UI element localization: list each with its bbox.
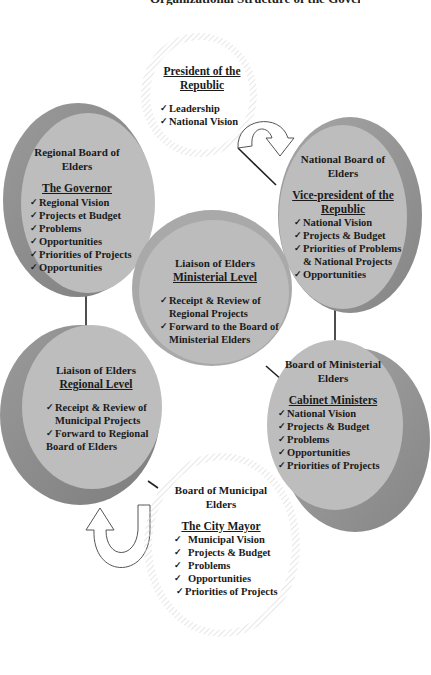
- list-item: ✓Problems: [30, 222, 132, 235]
- list-item-continuation: Board of Elders: [46, 440, 146, 453]
- check-icon: ✓: [30, 222, 38, 235]
- node-national-board: National Board of Elders Vice-president …: [288, 152, 398, 281]
- node-ministerial-board: Board of Ministerial Elders Cabinet Mini…: [278, 357, 388, 472]
- check-icon: ✓: [278, 433, 286, 446]
- municipal-board-heading: Board of Municipal Elders: [166, 483, 276, 511]
- liaison-regional-subtitle: Regional Level: [46, 377, 146, 391]
- check-icon: ✓: [278, 420, 286, 433]
- list-item-continuation: Municipal Projects: [46, 414, 146, 427]
- check-icon: ✓: [294, 268, 302, 281]
- connector-president-national: [238, 148, 276, 185]
- list-item: ✓National Vision: [160, 115, 244, 128]
- liaison-ministerial-subtitle: Ministerial Level: [160, 270, 270, 284]
- list-item: ✓Opportunities: [278, 446, 388, 459]
- list-item: ✓Municipal Vision: [174, 533, 276, 546]
- check-icon: ✓: [30, 235, 38, 248]
- list-item: ✓National Vision: [294, 216, 398, 229]
- check-icon: ✓: [160, 320, 168, 333]
- check-icon: ✓: [46, 427, 54, 440]
- check-icon: ✓: [30, 209, 38, 222]
- list-item: ✓Projects & Budget: [278, 420, 388, 433]
- list-item-continuation: & National Projects: [294, 255, 398, 268]
- check-icon: ✓: [160, 294, 168, 307]
- list-item: ✓Opportunities: [30, 261, 132, 274]
- list-item: ✓Opportunities: [30, 235, 132, 248]
- list-item: ✓Problems: [174, 559, 276, 572]
- list-item: ✓Receipt & Review of: [46, 401, 146, 414]
- list-item: ✓Regional Vision: [30, 196, 132, 209]
- node-liaison-ministerial: Liaison of Elders Ministerial Level ✓Rec…: [160, 256, 270, 346]
- list-item: ✓Priorities of Projects: [30, 248, 132, 261]
- list-item: ✓National Vision: [278, 407, 388, 420]
- national-board-heading: National Board of Elders: [288, 152, 398, 180]
- liaison-regional-heading: Liaison of Elders: [46, 363, 146, 377]
- check-icon: ✓: [46, 401, 54, 414]
- municipal-board-subtitle: The City Mayor: [166, 519, 276, 533]
- check-icon: ✓: [294, 229, 302, 242]
- list-item: ✓Priorities of Projects: [176, 585, 276, 598]
- check-icon: ✓: [30, 196, 38, 209]
- list-item: ✓Opportunities: [174, 572, 276, 585]
- list-item: ✓Leadership: [160, 102, 244, 115]
- liaison-ministerial-heading: Liaison of Elders: [160, 256, 270, 270]
- connector-liaison-municipal: [148, 481, 158, 488]
- node-liaison-regional: Liaison of Elders Regional Level ✓Receip…: [46, 363, 146, 453]
- check-icon: ✓: [294, 216, 302, 229]
- list-item: ✓Projects et Budget: [30, 209, 132, 222]
- check-icon: ✓: [278, 459, 286, 472]
- list-item: ✓Priorities of Projects: [278, 459, 388, 472]
- list-item: ✓Receipt & Review of: [160, 294, 270, 307]
- list-item: ✓Forward to Regional: [46, 427, 146, 440]
- national-board-subtitle: Vice-president of the Republic: [288, 188, 398, 216]
- check-icon: ✓: [176, 585, 184, 598]
- list-item: ✓Projects & Budget: [294, 229, 398, 242]
- curved-arrow-bottom: [86, 505, 150, 568]
- check-icon: ✓: [294, 242, 302, 255]
- list-item: ✓Problems: [278, 433, 388, 446]
- check-icon: ✓: [278, 407, 286, 420]
- check-icon: ✓: [174, 559, 182, 572]
- list-item: ✓Projects & Budget: [174, 546, 276, 559]
- list-item: ✓Priorities of Problems: [294, 242, 398, 255]
- node-president: President of the Republic ✓Leadership ✓N…: [160, 64, 244, 128]
- check-icon: ✓: [174, 546, 182, 559]
- list-item: ✓Opportunities: [294, 268, 398, 281]
- ministerial-board-heading: Board of Ministerial Elders: [278, 357, 388, 385]
- list-item-continuation: Ministerial Elders: [160, 333, 270, 346]
- check-icon: ✓: [160, 102, 168, 115]
- list-item-continuation: Regional Projects: [160, 307, 270, 320]
- president-title: President of the Republic: [160, 64, 244, 92]
- check-icon: ✓: [174, 572, 182, 585]
- regional-board-heading: Regional Board of Elders: [22, 145, 132, 173]
- check-icon: ✓: [174, 533, 182, 546]
- check-icon: ✓: [30, 248, 38, 261]
- node-municipal-board: Board of Municipal Elders The City Mayor…: [166, 483, 276, 598]
- check-icon: ✓: [278, 446, 286, 459]
- check-icon: ✓: [30, 261, 38, 274]
- check-icon: ✓: [160, 115, 168, 128]
- ministerial-board-subtitle: Cabinet Ministers: [278, 393, 388, 407]
- regional-board-subtitle: The Governor: [22, 181, 132, 195]
- list-item: ✓Forward to the Board of: [160, 320, 270, 333]
- node-regional-board: Regional Board of Elders The Governor ✓R…: [22, 145, 132, 274]
